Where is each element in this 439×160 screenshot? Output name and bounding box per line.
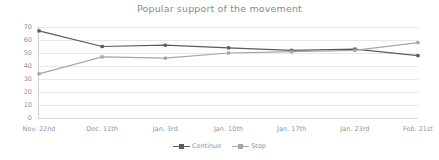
x-axis-tick-label: Feb. 21st	[403, 126, 433, 133]
data-point-marker	[416, 41, 419, 44]
data-point-marker	[164, 44, 167, 47]
plot-area	[39, 27, 418, 118]
x-axis: Nov. 22ndDec. 11thJan. 3rdJan. 10thJan. …	[39, 126, 418, 138]
data-point-marker	[37, 72, 40, 75]
legend-label: Stop	[251, 143, 266, 150]
y-axis-tick-label: 50	[24, 50, 32, 57]
y-axis-tick-label: 70	[24, 24, 32, 31]
legend-swatch-icon	[173, 143, 190, 150]
legend-item-stop[interactable]: Stop	[232, 143, 266, 150]
chart-legend: ContinueStop	[0, 143, 439, 150]
data-point-marker	[37, 29, 40, 32]
x-axis-tick-label: Jan. 10th	[214, 126, 243, 133]
data-point-marker	[353, 49, 356, 52]
series-layer	[39, 27, 418, 118]
y-axis: 010203040506070	[0, 27, 36, 118]
y-axis-tick-label: 30	[24, 76, 32, 83]
data-point-marker	[290, 50, 293, 53]
data-point-marker	[416, 54, 419, 57]
x-axis-tick-label: Jan. 17th	[277, 126, 306, 133]
chart-title: Popular support of the movement	[0, 3, 439, 14]
y-axis-tick-label: 40	[24, 63, 32, 70]
series-stop	[37, 41, 419, 75]
data-point-marker	[101, 45, 104, 48]
chart-container: Popular support of the movement 01020304…	[0, 0, 439, 160]
y-axis-tick-label: 10	[24, 102, 32, 109]
data-point-marker	[164, 57, 167, 60]
data-point-marker	[227, 51, 230, 54]
legend-item-continue[interactable]: Continue	[173, 143, 221, 150]
legend-swatch-icon	[232, 143, 249, 150]
data-point-marker	[101, 55, 104, 58]
gridline	[39, 118, 418, 119]
y-axis-tick-label: 60	[24, 37, 32, 44]
legend-label: Continue	[192, 143, 221, 150]
y-axis-tick-label: 20	[24, 89, 32, 96]
x-axis-tick-label: Jan. 23rd	[340, 126, 369, 133]
x-axis-tick-label: Dec. 11th	[86, 126, 118, 133]
x-axis-tick-label: Jan. 3rd	[153, 126, 178, 133]
data-point-marker	[227, 46, 230, 49]
y-axis-tick-label: 0	[28, 115, 32, 122]
x-axis-tick-label: Nov. 22nd	[23, 126, 56, 133]
